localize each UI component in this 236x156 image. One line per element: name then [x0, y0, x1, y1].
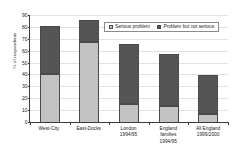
- bar-stack[interactable]: [79, 20, 99, 122]
- bar-segment[interactable]: [79, 20, 99, 42]
- x-axis-category-line: 1994/95: [148, 139, 188, 145]
- chart-legend: Serious problemProblem but not serious: [104, 22, 219, 33]
- legend-label: Serious problem: [115, 25, 150, 30]
- bar-stack[interactable]: [40, 26, 60, 122]
- x-axis-category-label: East-Docks: [69, 126, 109, 132]
- x-axis-tick-mark: [149, 122, 150, 125]
- bar-segment[interactable]: [79, 42, 99, 122]
- bar-segment[interactable]: [119, 104, 139, 122]
- bar-stack[interactable]: [119, 44, 139, 122]
- x-axis-tick-mark: [70, 122, 71, 125]
- legend-item[interactable]: Serious problem: [109, 25, 150, 30]
- legend-swatch-icon: [157, 25, 162, 30]
- bar-group[interactable]: [30, 15, 70, 122]
- x-axis-category-labels: West-CityEast-DocksLondon1994/95Englandf…: [29, 126, 228, 156]
- x-axis-category-line: 1994/95: [109, 132, 149, 138]
- bar-segment[interactable]: [198, 114, 218, 122]
- x-axis-category-label: London1994/95: [109, 126, 149, 139]
- x-axis-tick-mark: [30, 122, 31, 125]
- bar-segment[interactable]: [159, 106, 179, 122]
- x-axis-category-label: Englandfamilies1994/95: [148, 126, 188, 145]
- y-axis-title: % of respondents: [12, 16, 17, 86]
- x-axis-category-line: West-City: [29, 126, 69, 132]
- x-axis-tick-mark: [188, 122, 189, 125]
- bar-stack[interactable]: [198, 75, 218, 122]
- x-axis-category-line: 1999/2000: [188, 132, 228, 138]
- bar-segment[interactable]: [40, 26, 60, 74]
- x-axis-tick-mark: [109, 122, 110, 125]
- bar-segment[interactable]: [159, 54, 179, 107]
- bar-segment[interactable]: [119, 44, 139, 104]
- legend-item[interactable]: Problem but not serious: [157, 25, 214, 30]
- legend-label: Problem but not serious: [163, 25, 214, 30]
- x-axis-category-label: West-City: [29, 126, 69, 132]
- x-axis-category-label: All England1999/2000: [188, 126, 228, 139]
- x-axis-category-line: East-Docks: [69, 126, 109, 132]
- legend-swatch-icon: [109, 25, 114, 30]
- x-axis-tick-mark: [228, 122, 229, 125]
- bar-segment[interactable]: [40, 74, 60, 122]
- bar-stack[interactable]: [159, 54, 179, 122]
- stacked-bar-chart: % of respondents 0102030405060708090 Wes…: [0, 0, 236, 156]
- bar-segment[interactable]: [198, 75, 218, 113]
